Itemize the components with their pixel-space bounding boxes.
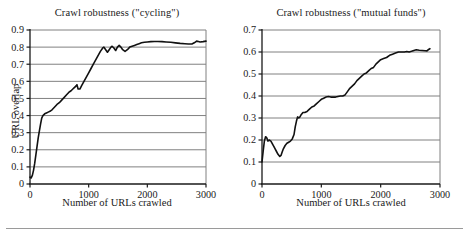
y-tick-label: 0.1 [243,156,256,167]
y-tick-label: 0 [251,178,256,189]
chart-panel-mutual-funds: Crawl robustness ("mutual funds") 00.10.… [234,0,468,222]
y-tick-label: 0.5 [243,68,256,79]
y-tick-label: 0.5 [11,93,24,104]
y-tick-label: 0.3 [243,112,256,123]
x-axis-label-mutual-funds: Number of URLs crawled [234,197,468,208]
y-tick-label: 0 [19,178,24,189]
figure-two-line-charts: Crawl robustness ("cycling") URL overlap… [0,0,469,235]
chart-panel-cycling: Crawl robustness ("cycling") URL overlap… [0,0,234,222]
y-tick-label: 0.4 [11,110,24,121]
y-tick-label: 0.7 [11,59,24,70]
data-line-mutual-funds [262,49,430,162]
y-tick-label: 0.4 [243,90,256,101]
y-tick-label: 0.3 [11,127,24,138]
plot-area-cycling: 00.10.20.30.40.50.60.70.80.9010002000300… [0,0,234,222]
y-tick-label: 0.7 [243,24,256,35]
y-tick-label: 0.6 [11,76,24,87]
figure-bottom-rule [6,228,463,229]
y-tick-label: 0.9 [11,24,24,35]
y-tick-label: 0.6 [243,46,256,57]
data-line-cycling [30,41,206,178]
y-tick-label: 0.2 [11,144,24,155]
plot-area-mutual-funds: 00.10.20.30.40.50.60.70100020003000 [234,0,468,222]
y-tick-label: 0.1 [11,161,24,172]
y-tick-label: 0.2 [243,134,256,145]
x-axis-label-cycling: Number of URLs crawled [0,197,234,208]
y-tick-label: 0.8 [11,42,24,53]
